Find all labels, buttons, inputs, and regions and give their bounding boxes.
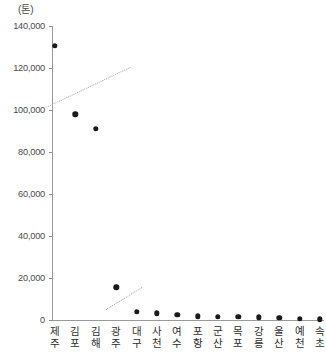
data-point <box>93 126 98 131</box>
data-point <box>134 309 139 314</box>
y-axis-tick-label: 140,000 <box>0 21 45 31</box>
data-point <box>236 314 241 319</box>
data-point <box>154 311 159 316</box>
y-axis-tick-label: 40,000 <box>0 231 45 241</box>
x-axis-tick-label: 여수 <box>170 326 184 349</box>
x-axis-line <box>52 320 324 321</box>
x-axis-tick-label: 대구 <box>130 326 144 349</box>
lower-trend-line <box>106 287 143 310</box>
y-axis-line <box>52 26 53 321</box>
x-axis-tick-label: 김해 <box>89 326 103 349</box>
x-axis-tick-label: 사천 <box>150 326 164 349</box>
data-point <box>215 314 220 319</box>
y-axis-tick-label: 120,000 <box>0 63 45 73</box>
data-point <box>195 314 200 319</box>
data-point <box>175 312 180 317</box>
x-axis-tick-label: 예천 <box>293 326 307 349</box>
x-axis-tick-label: 포항 <box>191 326 205 349</box>
x-axis-tick-label: 광주 <box>109 326 123 349</box>
y-axis-tick-label: 20,000 <box>0 273 45 283</box>
x-axis-tick-label: 군산 <box>211 326 225 349</box>
data-point <box>317 317 322 322</box>
y-axis-tick-label: 60,000 <box>0 189 45 199</box>
x-axis-tick-label: 강릉 <box>252 326 266 349</box>
x-axis-tick-label: 속초 <box>313 326 326 349</box>
scatter-chart: (톤) 020,00040,00060,00080,000100,000120,… <box>0 0 326 364</box>
data-point <box>113 285 118 290</box>
x-axis-tick-label: 제주 <box>48 326 62 349</box>
data-point <box>52 43 57 48</box>
y-axis-tick-label: 80,000 <box>0 147 45 157</box>
y-axis-tick-label: 0 <box>0 315 45 325</box>
y-axis-tick-label: 100,000 <box>0 105 45 115</box>
x-axis-tick-label: 울산 <box>272 326 286 349</box>
data-point <box>73 111 78 116</box>
upper-trend-line <box>48 67 130 107</box>
x-axis-tick-label: 김포 <box>68 326 82 349</box>
y-axis-unit-label: (톤) <box>18 1 34 16</box>
x-axis-tick-label: 목포 <box>231 326 245 349</box>
